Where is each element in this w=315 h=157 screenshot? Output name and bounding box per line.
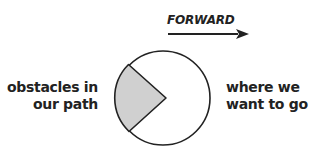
obstacles-label-line-1: obstacles in — [7, 79, 98, 96]
obstacles-label-line-2: our path — [7, 96, 98, 113]
goal-label-line-1: where we — [226, 79, 308, 96]
forward-label: FORWARD — [167, 13, 235, 27]
goal-label-line-2: want to go — [226, 96, 308, 113]
obstacles-label: obstacles in our path — [7, 79, 98, 113]
goal-label: where we want to go — [226, 79, 308, 113]
